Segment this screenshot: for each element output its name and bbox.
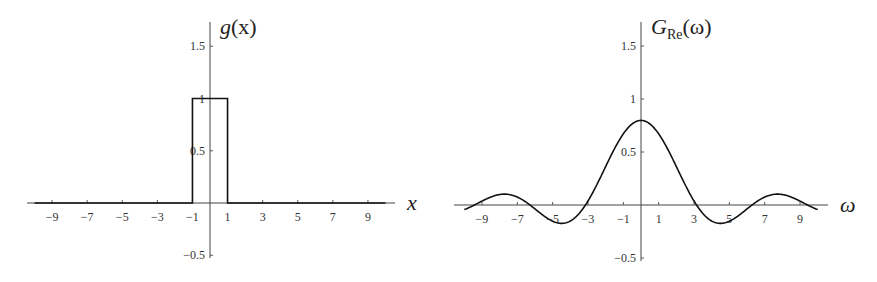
x-tick-label: 5 xyxy=(295,210,301,224)
x-tick-label: 9 xyxy=(797,212,803,226)
chart-title: GRe(ω) xyxy=(651,14,712,42)
y-tick-label: 1.5 xyxy=(190,39,205,53)
x-tick-label: 5 xyxy=(726,212,732,226)
x-tick-label: 1 xyxy=(656,212,662,226)
right-chart-G-re-omega: −9−7−5−3−113579−0.50.511.5GRe(ω)ω xyxy=(454,14,856,265)
y-tick-label: 1.5 xyxy=(621,39,636,53)
x-tick-label: 3 xyxy=(260,210,266,224)
x-tick-label: −9 xyxy=(476,212,489,226)
x-tick-label: −3 xyxy=(151,210,164,224)
x-tick-label: −7 xyxy=(81,210,94,224)
y-tick-label: −0.5 xyxy=(183,248,205,262)
y-tick-label: −0.5 xyxy=(614,251,636,265)
x-tick-label: 1 xyxy=(225,210,231,224)
x-tick-label: 3 xyxy=(691,212,697,226)
x-tick-label: −9 xyxy=(46,210,59,224)
x-tick-label: 7 xyxy=(330,210,336,224)
x-tick-label: −1 xyxy=(617,212,630,226)
x-tick-label: −1 xyxy=(186,210,199,224)
x-tick-label: −7 xyxy=(511,212,524,226)
y-tick-label: 0.5 xyxy=(621,145,636,159)
x-tick-label: −5 xyxy=(116,210,129,224)
chart-title: g(x) xyxy=(220,14,257,39)
x-axis-label: x xyxy=(406,190,417,215)
x-axis-label: ω xyxy=(840,192,856,217)
fourier-pair-figure: −9−7−5−3−113579−0.50.511.5g(x)x −9−7−5−3… xyxy=(0,0,877,282)
left-chart-g-of-x: −9−7−5−3−113579−0.50.511.5g(x)x xyxy=(27,14,417,262)
x-tick-label: 7 xyxy=(762,212,768,226)
x-tick-label: −3 xyxy=(582,212,595,226)
y-tick-label: 1 xyxy=(630,92,636,106)
x-tick-label: 9 xyxy=(365,210,371,224)
